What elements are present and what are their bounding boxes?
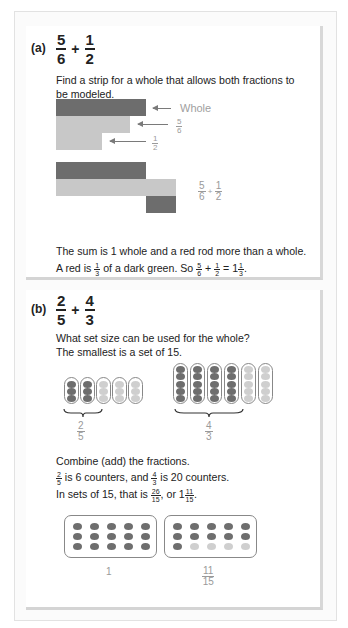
four-thirds-label: 43 (205, 421, 213, 442)
counter-rod (190, 363, 205, 405)
counter (107, 533, 116, 540)
part-b-instruction: What set size can be used for the whole?… (56, 331, 250, 359)
counter (99, 388, 108, 395)
whole-set-label: 1 (106, 566, 112, 577)
counter (193, 388, 202, 395)
counter (207, 523, 216, 530)
counter-rod (128, 377, 143, 404)
denominator: 15 (186, 496, 194, 503)
counter (83, 388, 92, 395)
counter (190, 543, 199, 550)
counter (141, 523, 150, 530)
counter-rod (64, 377, 79, 404)
text: is 20 counters. (157, 471, 229, 483)
counter-rod (224, 363, 239, 405)
fraction: 12 (85, 32, 95, 66)
counter (176, 381, 185, 388)
counter (173, 533, 182, 540)
counter (207, 543, 216, 550)
counter (227, 395, 236, 402)
red-rod-strip (146, 196, 176, 213)
counter (210, 366, 219, 373)
counter (67, 395, 76, 402)
part-a-conclusion-1: The sum is 1 whole and a red rod more th… (56, 244, 306, 258)
part-a-card: (a) 56+12 Find a strip for a whole that … (26, 26, 323, 280)
numerator: 2 (56, 293, 66, 311)
counter-rod (112, 377, 127, 404)
sum-label: 56 + 12 (198, 181, 222, 202)
counter (90, 523, 99, 530)
two-fifths-label: 25 (77, 421, 85, 442)
counter (107, 543, 116, 550)
sum-combined-strip (56, 179, 176, 196)
arrow-icon (138, 124, 168, 125)
counter (176, 373, 185, 380)
counter (244, 381, 253, 388)
counter (210, 373, 219, 380)
text: , or 1 (161, 488, 185, 500)
counter (73, 543, 82, 550)
sum-whole-strip (56, 162, 146, 179)
counter (124, 543, 133, 550)
counter-rod (258, 363, 273, 405)
text-line: What set size can be used for the whole? (56, 331, 250, 345)
text: . (194, 488, 197, 500)
counter (83, 395, 92, 402)
counter-rod (241, 363, 256, 405)
fraction: 56 (56, 32, 66, 66)
fraction: 12 (215, 181, 223, 202)
counter (261, 366, 270, 373)
counter (99, 395, 108, 402)
counter (244, 395, 253, 402)
counter (124, 533, 133, 540)
denominator: 5 (57, 479, 61, 486)
denominator: 6 (197, 270, 201, 277)
counter (244, 366, 253, 373)
denominator: 3 (239, 270, 243, 277)
whole-strip (56, 99, 146, 116)
counter (261, 388, 270, 395)
denominator: 2 (216, 192, 222, 202)
text-line: Find a strip for a whole that allows bot… (56, 73, 294, 87)
plus-sign: + (208, 187, 213, 196)
counter (261, 395, 270, 402)
counter (90, 533, 99, 540)
counter (67, 388, 76, 395)
counter (173, 523, 182, 530)
counter (176, 366, 185, 373)
counter-rod (80, 377, 95, 404)
counter (73, 523, 82, 530)
counter (193, 373, 202, 380)
counter (90, 543, 99, 550)
counter (193, 395, 202, 402)
text: In sets of 15, that is (56, 488, 151, 500)
counters-line: 25 is 6 counters, and 43 is 20 counters. (56, 470, 229, 486)
counter (224, 523, 233, 530)
counter-rod (96, 377, 111, 404)
counter (227, 381, 236, 388)
five-sixths-label: 56 (176, 118, 182, 135)
arrow-icon (110, 141, 146, 142)
counter (176, 395, 185, 402)
denominator: 15 (152, 496, 160, 503)
fraction: 2615 (151, 488, 161, 503)
remainder-set-box (164, 515, 257, 558)
counter (241, 543, 250, 550)
arrow-icon (153, 108, 171, 109)
counter (173, 543, 182, 550)
denominator: 3 (152, 479, 156, 486)
denominator: 5 (57, 311, 65, 327)
counter (227, 373, 236, 380)
counter (193, 366, 202, 373)
counter (210, 388, 219, 395)
denominator: 6 (57, 50, 65, 66)
text: . (244, 262, 247, 274)
counter (261, 381, 270, 388)
counter (141, 533, 150, 540)
part-b-card: (b) 25+43 What set size can be used for … (26, 290, 323, 610)
one-half-label: 12 (152, 135, 158, 152)
whole-set-box (64, 515, 157, 558)
text: is 6 counters, and (62, 471, 152, 483)
combine-text: Combine (add) the fractions. (56, 454, 190, 468)
sets-line: In sets of 15, that is 2615, or 11115. (56, 487, 197, 503)
